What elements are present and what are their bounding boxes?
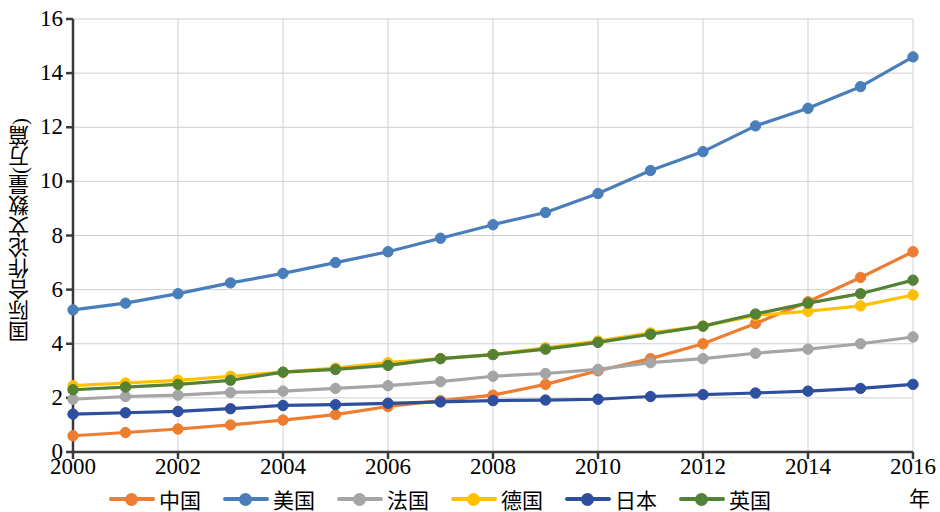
data-point bbox=[120, 427, 130, 437]
data-point bbox=[855, 301, 865, 311]
data-point bbox=[593, 394, 603, 404]
x-tick-label: 2012 bbox=[668, 454, 738, 480]
data-point bbox=[803, 103, 813, 113]
data-point bbox=[855, 383, 865, 393]
data-point bbox=[908, 247, 918, 257]
data-point bbox=[698, 339, 708, 349]
y-tick-label: 16 bbox=[29, 6, 63, 32]
data-point bbox=[330, 399, 340, 409]
data-point bbox=[698, 146, 708, 156]
data-point bbox=[908, 379, 918, 389]
y-tick-label: 12 bbox=[29, 114, 63, 140]
legend-swatch-icon bbox=[565, 491, 611, 507]
data-point bbox=[68, 394, 78, 404]
data-point bbox=[330, 383, 340, 393]
y-tick-label: 6 bbox=[29, 277, 63, 303]
legend-marker-icon bbox=[353, 493, 366, 506]
data-point bbox=[383, 398, 393, 408]
data-point bbox=[908, 290, 918, 300]
data-point bbox=[120, 408, 130, 418]
legend-marker-icon bbox=[581, 493, 594, 506]
data-point bbox=[120, 298, 130, 308]
x-axis-title-text: 年 bbox=[909, 487, 930, 511]
legend-item-4[interactable]: 日本 bbox=[565, 484, 657, 512]
x-tick-label: 2000 bbox=[38, 454, 108, 480]
data-point bbox=[330, 409, 340, 419]
data-point bbox=[698, 321, 708, 331]
data-point bbox=[540, 395, 550, 405]
data-point bbox=[540, 207, 550, 217]
legend-swatch-icon bbox=[337, 491, 383, 507]
data-point bbox=[68, 305, 78, 315]
data-point bbox=[225, 420, 235, 430]
legend-swatch-icon bbox=[223, 491, 269, 507]
data-point bbox=[120, 382, 130, 392]
data-point bbox=[855, 81, 865, 91]
data-point bbox=[435, 233, 445, 243]
y-tick-label: 10 bbox=[29, 168, 63, 194]
legend-item-0[interactable]: 中国 bbox=[109, 484, 201, 512]
data-point bbox=[68, 385, 78, 395]
x-tick-label: 2004 bbox=[248, 454, 318, 480]
data-point bbox=[173, 379, 183, 389]
y-tick-label: 4 bbox=[29, 331, 63, 357]
legend-label: 德国 bbox=[501, 484, 543, 512]
legend-label: 日本 bbox=[615, 484, 657, 512]
data-point bbox=[855, 339, 865, 349]
data-point bbox=[855, 272, 865, 282]
legend-item-5[interactable]: 英国 bbox=[679, 484, 771, 512]
x-tick-label: 2014 bbox=[773, 454, 843, 480]
data-point bbox=[908, 52, 918, 62]
data-point bbox=[330, 364, 340, 374]
data-point bbox=[908, 332, 918, 342]
data-point bbox=[645, 357, 655, 367]
data-point bbox=[68, 431, 78, 441]
data-point bbox=[803, 386, 813, 396]
data-point bbox=[750, 309, 760, 319]
x-tick-label: 2010 bbox=[563, 454, 633, 480]
data-point bbox=[330, 257, 340, 267]
data-point bbox=[278, 400, 288, 410]
legend-label: 美国 bbox=[273, 484, 315, 512]
legend-item-2[interactable]: 法国 bbox=[337, 484, 429, 512]
data-point bbox=[488, 371, 498, 381]
data-point bbox=[225, 387, 235, 397]
legend-swatch-icon bbox=[451, 491, 497, 507]
data-point bbox=[278, 386, 288, 396]
x-tick-label: 2002 bbox=[143, 454, 213, 480]
data-point bbox=[750, 348, 760, 358]
data-point bbox=[383, 247, 393, 257]
data-point bbox=[593, 188, 603, 198]
y-tick-label: 14 bbox=[29, 60, 63, 86]
data-point bbox=[435, 353, 445, 363]
data-point bbox=[540, 379, 550, 389]
data-point bbox=[540, 344, 550, 354]
legend-item-3[interactable]: 德国 bbox=[451, 484, 543, 512]
x-tick-label: 2016 bbox=[878, 454, 940, 480]
data-point bbox=[225, 278, 235, 288]
data-point bbox=[593, 364, 603, 374]
legend-item-1[interactable]: 美国 bbox=[223, 484, 315, 512]
legend-label: 法国 bbox=[387, 484, 429, 512]
data-point bbox=[435, 397, 445, 407]
data-point bbox=[488, 395, 498, 405]
legend-marker-icon bbox=[239, 493, 252, 506]
data-point bbox=[225, 375, 235, 385]
data-point bbox=[278, 415, 288, 425]
data-point bbox=[645, 391, 655, 401]
legend-swatch-icon bbox=[109, 491, 155, 507]
y-tick-label: 2 bbox=[29, 385, 63, 411]
legend-marker-icon bbox=[125, 493, 138, 506]
legend-marker-icon bbox=[695, 493, 708, 506]
data-point bbox=[383, 360, 393, 370]
data-point bbox=[803, 298, 813, 308]
data-point bbox=[540, 368, 550, 378]
data-point bbox=[383, 380, 393, 390]
data-point bbox=[173, 424, 183, 434]
data-point bbox=[803, 344, 813, 354]
data-point bbox=[278, 268, 288, 278]
data-point bbox=[173, 288, 183, 298]
data-point bbox=[435, 376, 445, 386]
